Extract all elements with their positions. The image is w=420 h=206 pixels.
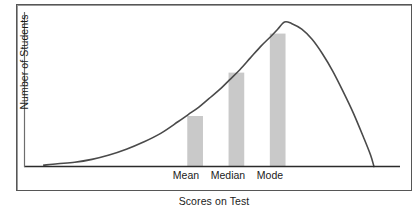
- bar-median: [229, 73, 245, 167]
- y-axis-label: Number of Students: [18, 0, 30, 132]
- bar-series: [187, 34, 285, 167]
- bar-mean: [187, 116, 203, 167]
- bar-mode: [270, 34, 286, 167]
- chart-figure: Number of Students Mean Median Mode Scor…: [0, 0, 420, 206]
- distribution-curve: [44, 22, 374, 167]
- bar-label-mode: Mode: [247, 169, 293, 181]
- x-axis-label: Scores on Test: [16, 195, 412, 206]
